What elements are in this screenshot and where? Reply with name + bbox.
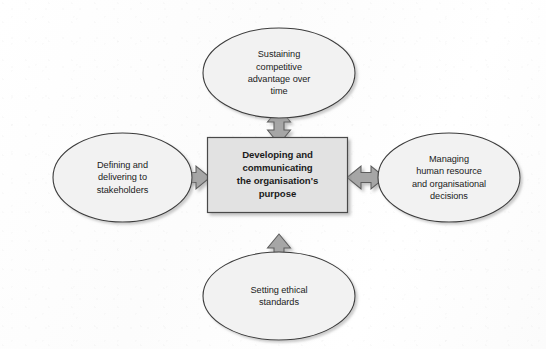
node-shape-right bbox=[378, 133, 520, 222]
node-shape-center bbox=[208, 138, 348, 213]
node-shape-top bbox=[203, 28, 355, 118]
diagram-figure bbox=[0, 0, 546, 349]
node-shape-left bbox=[53, 133, 192, 222]
node-shape-bottom bbox=[203, 252, 355, 340]
diagram-canvas: Sustaining competitive advantage over ti… bbox=[0, 0, 546, 349]
